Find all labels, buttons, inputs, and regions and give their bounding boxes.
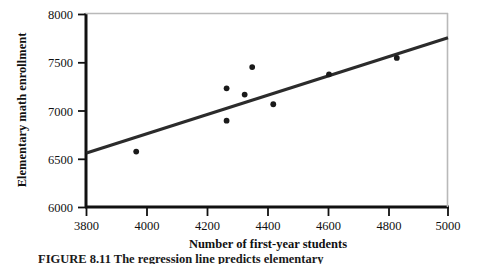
figure-container: 8000 7500 7000 6500 6000 3800 4000 4200 … (0, 0, 478, 264)
plot-area-background (85, 13, 448, 207)
y-axis-title: Elementary math enrollment (15, 32, 29, 187)
data-point (270, 101, 276, 107)
y-tick-label-8000: 8000 (48, 8, 73, 22)
data-point (242, 92, 248, 98)
data-point (326, 71, 332, 77)
x-axis-title: Number of first-year students (189, 237, 347, 251)
data-point (224, 118, 230, 124)
x-tick-label-4200: 4200 (195, 219, 220, 233)
figure-caption: FIGURE 8.11 The regression line predicts… (38, 252, 324, 264)
x-tick-label-4000: 4000 (135, 219, 160, 233)
y-tick-label-6000: 6000 (48, 201, 73, 215)
x-tick-label-4600: 4600 (316, 219, 341, 233)
scatter-plot: 8000 7500 7000 6500 6000 3800 4000 4200 … (0, 0, 478, 264)
y-tick-label-6500: 6500 (48, 153, 73, 167)
data-point (224, 85, 230, 91)
x-tick-label-3800: 3800 (74, 219, 99, 233)
x-tick-label-4800: 4800 (377, 219, 402, 233)
y-tick-label-7000: 7000 (48, 105, 73, 119)
data-point (249, 64, 255, 70)
data-point (133, 149, 139, 155)
x-tick-label-5000: 5000 (436, 219, 461, 233)
y-tick-label-7500: 7500 (48, 56, 73, 70)
data-point (394, 55, 400, 61)
x-tick-label-4400: 4400 (256, 219, 281, 233)
